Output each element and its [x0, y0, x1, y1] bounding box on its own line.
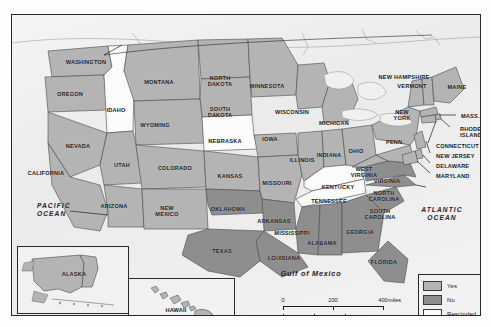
state-label-south-dakota: SOUTH DAKOTA	[208, 106, 233, 118]
alaska-label: ALASKA	[62, 271, 87, 277]
state-label-arkansas: ARKANSAS	[257, 218, 290, 224]
scale-miles-tick-0: 0	[281, 297, 284, 303]
map-frame: .st{stroke:#4a4a4a;stroke-width:.6;} .ye…	[11, 14, 481, 316]
legend-item-rescinded: Rescinded	[423, 307, 481, 316]
atlantic-ocean-label: ATLANTIC OCEAN	[421, 206, 462, 222]
state-label-south-carolina: SOUTH CAROLINA	[364, 208, 395, 220]
state-label-indiana: INDIANA	[317, 152, 342, 158]
scale-miles-tick-2: 400	[378, 297, 387, 303]
state-label-virginia: VIRGINIA	[374, 178, 400, 184]
state-label-iowa: IOWA	[262, 136, 278, 142]
state-label-kentucky: KENTUCKY	[322, 184, 355, 190]
state-label-illinois: ILLINOIS	[289, 157, 314, 163]
map-legend: Yes No Rescinded	[418, 274, 481, 316]
state-label-california: CALIFORNIA	[28, 170, 65, 176]
state-label-montana: MONTANA	[144, 79, 174, 85]
state-label-tennessee: TENNESSEE	[311, 198, 347, 204]
state-callout-massachusetts: MASS.	[461, 113, 480, 119]
state-label-minnesota: MINNESOTA	[250, 83, 285, 89]
state-label-north-dakota: NORTH DAKOTA	[208, 75, 233, 87]
state-callout-new-jersey: NEW JERSEY	[436, 153, 475, 159]
legend-swatch-yes	[423, 281, 442, 291]
state-label-ohio: OHIO	[348, 148, 363, 154]
scale-bar: 0 200 400 miles 0 200 400 kilometers	[275, 296, 403, 316]
state-label-vermont: VERMONT	[397, 83, 426, 89]
state-label-arizona: ARIZONA	[101, 203, 128, 209]
scale-miles-tick-1: 200	[328, 297, 337, 303]
state-callout-delaware: DELAWARE	[436, 163, 469, 169]
state-label-michigan: MICHIGAN	[319, 120, 349, 126]
state-label-colorado: COLORADO	[158, 165, 192, 171]
legend-item-no: No	[423, 293, 481, 306]
alaska-inset: ALASKA	[17, 246, 129, 314]
state-label-alabama: ALABAMA	[307, 240, 337, 246]
hawaii-label: HAWAII	[165, 307, 186, 313]
legend-label-rescinded: Rescinded	[447, 311, 476, 317]
state-label-kansas: KANSAS	[218, 173, 243, 179]
state-label-pennsylvania: PENN.	[386, 139, 404, 145]
alaska-geometry	[18, 247, 128, 313]
pacific-ocean-label: PACIFIC OCEAN	[37, 202, 71, 218]
legend-swatch-rescinded	[423, 309, 442, 317]
state-label-new-york: NEW YORK	[394, 109, 411, 121]
state-label-louisiana: LOUISIANA	[268, 255, 301, 261]
state-label-washington: WASHINGTON	[66, 59, 106, 65]
state-label-florida: FLORIDA	[371, 259, 397, 265]
state-label-idaho: IDAHO	[106, 107, 125, 113]
state-label-wisconsin: WISCONSIN	[275, 109, 309, 115]
state-label-new-hampshire: NEW HAMPSHIRE	[379, 74, 430, 80]
legend-label-no: No	[447, 297, 455, 303]
map-figure: .st{stroke:#4a4a4a;stroke-width:.6;} .ye…	[0, 0, 491, 327]
state-label-wyoming: WYOMING	[140, 122, 169, 128]
state-label-texas: TEXAS	[212, 248, 232, 254]
state-label-oklahoma: OKLAHOMA	[211, 206, 246, 212]
state-label-utah: UTAH	[114, 162, 130, 168]
state-label-north-carolina: NORTH CAROLINA	[368, 190, 399, 202]
state-label-west-virginia: WEST VIRGINIA	[351, 166, 377, 178]
legend-item-yes: Yes	[423, 279, 481, 292]
state-callout-rhode-island: RHODE ISLAND	[460, 126, 481, 138]
state-callout-maryland: MARYLAND	[436, 173, 469, 179]
state-label-georgia: GEORGIA	[346, 229, 374, 235]
state-label-mississippi: MISSISSIPPI	[274, 230, 309, 236]
hawaii-inset: HAWAII	[128, 278, 235, 316]
state-label-new-mexico: NEW MEXICO	[155, 205, 178, 217]
gulf-of-mexico-label: Gulf of Mexico	[281, 269, 342, 278]
state-label-maine: MAINE	[447, 84, 466, 90]
state-callout-connecticut: CONNECTICUT	[436, 143, 479, 149]
legend-swatch-no	[423, 295, 442, 305]
scale-miles-unit: miles	[388, 297, 401, 303]
state-label-nebraska: NEBRASKA	[208, 138, 241, 144]
state-label-nevada: NEVADA	[66, 143, 90, 149]
state-label-oregon: OREGON	[57, 91, 83, 97]
legend-label-yes: Yes	[447, 283, 457, 289]
state-label-missouri: MISSOURI	[262, 180, 291, 186]
